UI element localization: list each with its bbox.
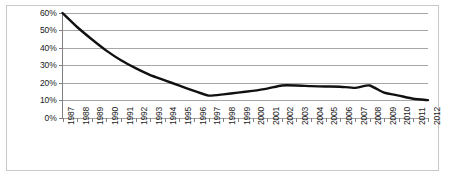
y-tick-label: 50% [23, 25, 57, 35]
x-tick-label: 1996 [198, 107, 208, 125]
x-tick-label: 1987 [66, 107, 76, 125]
y-tick-label: 30% [23, 60, 57, 70]
data-series-line [63, 13, 429, 100]
y-tick-label: 40% [23, 43, 57, 53]
x-tick-label: 1993 [154, 107, 164, 125]
x-tick-label: 2007 [359, 107, 369, 125]
x-tick-label: 2008 [373, 107, 383, 125]
x-tick-label: 1991 [125, 107, 135, 125]
x-tick-label: 1997 [212, 107, 222, 125]
gridlines [63, 13, 429, 118]
x-tick-label: 2004 [315, 107, 325, 125]
x-tick-label: 1989 [95, 107, 105, 125]
x-tick-label: 2012 [432, 107, 442, 125]
y-tick-label: 20% [23, 78, 57, 88]
chart-figure: 0%10%20%30%40%50%60% 1987198819891990199… [0, 0, 456, 185]
y-tick-label: 0% [23, 113, 57, 123]
x-tick-label: 1992 [139, 107, 149, 125]
x-tick-label: 1999 [242, 107, 252, 125]
line-chart-plot [0, 0, 456, 185]
x-tick-label: 2006 [344, 107, 354, 125]
x-tick-label: 2001 [271, 107, 281, 125]
x-tick-label: 1994 [168, 107, 178, 125]
x-tick-label: 1988 [81, 107, 91, 125]
x-tick-label: 1990 [110, 107, 120, 125]
y-tick-marks [59, 13, 63, 118]
x-tick-label: 2009 [388, 107, 398, 125]
y-tick-label: 10% [23, 95, 57, 105]
y-tick-label: 60% [23, 8, 57, 18]
x-tick-label: 2011 [417, 108, 427, 125]
x-tick-label: 2002 [285, 107, 295, 125]
x-tick-label: 2000 [256, 107, 266, 125]
x-tick-label: 1998 [227, 107, 237, 125]
x-tick-label: 1995 [183, 107, 193, 125]
x-tick-label: 2005 [329, 107, 339, 125]
x-tick-label: 2003 [300, 107, 310, 125]
x-tick-label: 2010 [402, 107, 412, 125]
